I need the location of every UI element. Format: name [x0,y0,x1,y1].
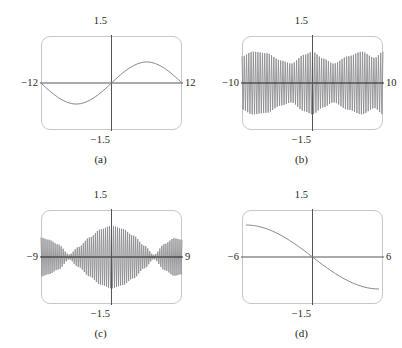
panel-b-left-label: −10 [201,78,239,89]
panel-b-caption: (b) [201,153,402,165]
panel-d: 1.5 −1.5 −6 6 (d) [201,174,402,348]
panel-d-left-label: −6 [201,252,239,263]
panel-b-top-label: 1.5 [201,16,402,27]
panel-c: 1.5 −1.5 −9 9 (c) [0,174,201,348]
panel-c-top-label: 1.5 [0,190,201,201]
panel-b: 1.5 −1.5 −10 10 (b) [201,0,402,174]
panel-b-right-label: 10 [386,78,402,89]
panel-d-bottom-label: −1.5 [201,309,402,320]
panel-d-top-label: 1.5 [201,190,402,201]
panel-a: 1.5 −1.5 −12 12 (a) [0,0,201,174]
panel-a-caption: (a) [0,153,201,165]
figure-four-calculator-windows: 1.5 −1.5 −12 12 (a) 1.5 −1.5 −10 10 (b) [0,0,402,348]
panel-d-right-label: 6 [386,252,402,263]
panel-c-left-label: −9 [0,252,38,263]
panel-a-left-label: −12 [0,78,38,89]
panel-d-caption: (d) [201,327,402,339]
panel-d-plot [242,210,383,304]
panel-a-bottom-label: −1.5 [0,135,201,146]
panel-b-bottom-label: −1.5 [201,135,402,146]
panel-c-plot [41,210,182,304]
panel-c-bottom-label: −1.5 [0,309,201,320]
panel-c-caption: (c) [0,327,201,339]
panel-a-plot [41,36,182,130]
panel-b-plot [242,36,383,130]
panel-a-top-label: 1.5 [0,16,201,27]
